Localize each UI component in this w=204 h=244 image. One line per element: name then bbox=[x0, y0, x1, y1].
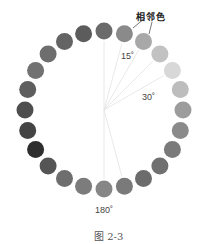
angle-30-label: 30˚ bbox=[142, 92, 155, 102]
color-dot bbox=[164, 141, 181, 158]
angle-15-label: 15˚ bbox=[121, 51, 134, 61]
color-dot bbox=[116, 178, 133, 195]
color-dot bbox=[135, 170, 152, 187]
color-dot bbox=[56, 170, 73, 187]
color-dot bbox=[175, 102, 192, 119]
color-dot bbox=[151, 157, 168, 174]
color-dot bbox=[19, 81, 36, 98]
radial-line bbox=[104, 61, 153, 110]
radial-line bbox=[104, 43, 122, 110]
color-dot bbox=[164, 62, 181, 79]
color-dot bbox=[172, 122, 189, 139]
figure-caption: 图 2-3 bbox=[94, 228, 123, 243]
radial-line bbox=[104, 110, 122, 177]
color-dot bbox=[96, 23, 113, 40]
color-dot bbox=[75, 178, 92, 195]
radial-guide-lines bbox=[104, 41, 164, 179]
color-dot bbox=[17, 102, 34, 119]
color-dot bbox=[56, 33, 73, 50]
color-dot bbox=[75, 25, 92, 42]
adjacent-colors-label: 相邻色 bbox=[136, 10, 166, 23]
angle-180-label: 180˚ bbox=[95, 205, 113, 215]
color-dot bbox=[40, 157, 57, 174]
color-dot bbox=[135, 33, 152, 50]
color-dot bbox=[116, 25, 133, 42]
color-dot bbox=[27, 62, 44, 79]
color-dot bbox=[40, 46, 57, 63]
color-dot bbox=[172, 81, 189, 98]
color-dot bbox=[96, 181, 113, 198]
color-dot bbox=[19, 122, 36, 139]
color-dot bbox=[151, 46, 168, 63]
color-dot bbox=[27, 141, 44, 158]
